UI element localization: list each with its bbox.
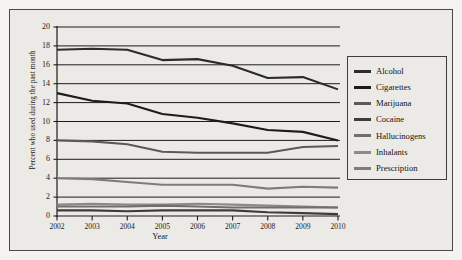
legend-swatch-icon bbox=[354, 151, 371, 154]
legend-label: Inhalants bbox=[376, 148, 408, 157]
plot-area: Percent who used during the past month Y… bbox=[10, 10, 454, 252]
legend-swatch-icon bbox=[354, 70, 371, 73]
chart-page: Percent who used during the past month Y… bbox=[0, 0, 462, 260]
legend-swatch-icon bbox=[354, 102, 371, 105]
series-line-marijuana bbox=[57, 140, 338, 152]
legend-label: Cocaine bbox=[376, 115, 404, 124]
legend-item-alcohol: Alcohol bbox=[354, 63, 446, 79]
legend-item-cigarettes: Cigarettes bbox=[354, 79, 446, 95]
series-line-cigarettes bbox=[57, 93, 338, 140]
chart-legend: AlcoholCigarettesMarijuanaCocaineHalluci… bbox=[347, 56, 447, 180]
series-line-prescription bbox=[57, 178, 338, 188]
legend-item-hallucinogens: Hallucinogens bbox=[354, 128, 446, 144]
legend-label: Alcohol bbox=[376, 67, 404, 76]
series-line-cocaine bbox=[57, 210, 338, 214]
legend-label: Hallucinogens bbox=[376, 132, 426, 141]
legend-swatch-icon bbox=[354, 167, 371, 170]
legend-label: Cigarettes bbox=[376, 83, 411, 92]
legend-swatch-icon bbox=[354, 118, 371, 121]
legend-label: Marijuana bbox=[376, 99, 411, 108]
legend-item-cocaine: Cocaine bbox=[354, 112, 446, 128]
legend-item-marijuana: Marijuana bbox=[354, 95, 446, 111]
legend-item-inhalants: Inhalants bbox=[354, 144, 446, 160]
figure-frame: Percent who used during the past month Y… bbox=[9, 9, 453, 251]
legend-swatch-icon bbox=[354, 134, 371, 137]
legend-label: Prescription bbox=[376, 164, 418, 173]
legend-item-prescription: Prescription bbox=[354, 160, 446, 176]
legend-swatch-icon bbox=[354, 86, 371, 89]
